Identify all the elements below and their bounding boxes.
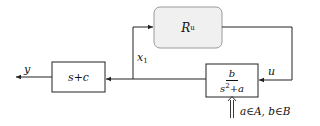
plant-numerator: b: [226, 68, 238, 81]
u-signal-label: u: [268, 66, 275, 77]
output-block-text: s+c: [68, 71, 89, 84]
plant-transfer-function: b s2+a: [206, 64, 258, 97]
parameter-double-arrow: [228, 97, 236, 119]
y-signal-label: y: [24, 64, 30, 75]
plant-denominator: s2+a: [220, 81, 244, 94]
x1-sub: 1: [143, 57, 147, 65]
controller-label: Ru: [154, 7, 222, 48]
output-block-label: s+c: [52, 62, 105, 92]
parameter-set-label: a∈A, b∈B: [240, 106, 291, 117]
x1-signal-label: x1: [137, 52, 148, 65]
controller-label-sub: u: [190, 24, 195, 32]
den-rest: +a: [230, 83, 244, 94]
controller-label-main: R: [181, 21, 190, 35]
